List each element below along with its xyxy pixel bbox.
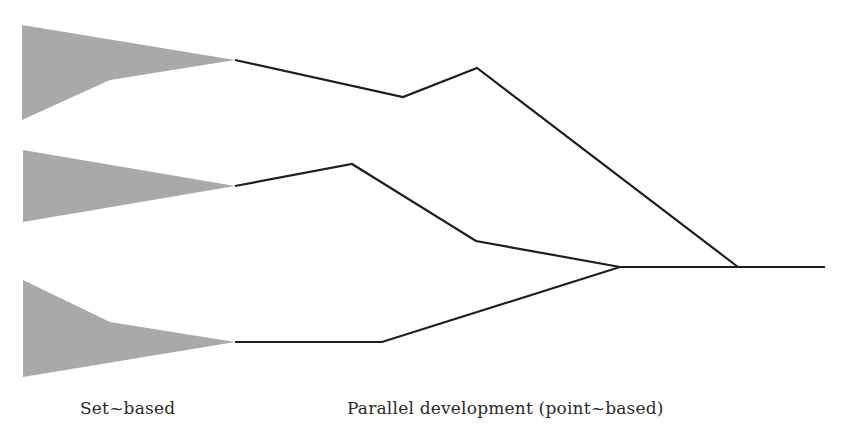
set-fan-bottom — [23, 280, 235, 377]
set-based-label: Set~based — [80, 398, 175, 418]
path-middle — [235, 164, 620, 267]
set-fan-middle — [23, 150, 235, 222]
convergence-diagram — [0, 0, 846, 424]
path-top — [235, 60, 738, 267]
path-bottom — [235, 267, 620, 342]
parallel-development-label: Parallel development (point~based) — [347, 398, 664, 418]
set-fan-top — [22, 25, 235, 120]
